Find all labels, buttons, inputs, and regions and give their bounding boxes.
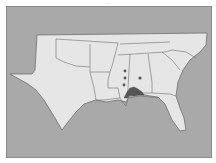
land-mass [10, 33, 207, 131]
range-map [0, 0, 216, 163]
occurrence-point [124, 70, 127, 73]
occurrence-point [138, 76, 141, 79]
occurrence-point [123, 84, 126, 87]
occurrence-point [124, 77, 127, 80]
